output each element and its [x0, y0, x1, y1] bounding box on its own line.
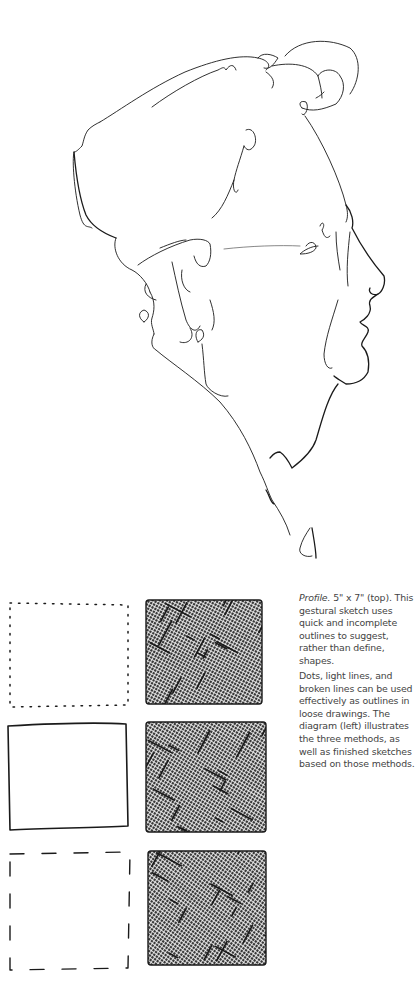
dashed-outline-diagram	[4, 848, 136, 978]
solid-outline-diagram	[4, 718, 136, 840]
caption-title: Profile.	[299, 592, 330, 603]
caption-profile: Profile. 5" x 7" (top). This gestural sk…	[299, 592, 417, 668]
crosshatch-lines	[144, 598, 264, 706]
finished-sketch-light-lines	[144, 720, 268, 834]
crosshatch-lines	[146, 849, 268, 967]
profile-sketch	[0, 0, 417, 560]
head-outline	[73, 41, 384, 558]
caption-diagram: Dots, light lines, and broken lines can …	[299, 670, 417, 771]
dotted-outline-diagram	[4, 595, 136, 717]
caption-profile-body: 5" x 7" (top). This gestural sketch uses…	[299, 592, 413, 666]
crosshatch-lines	[144, 720, 268, 834]
finished-sketch-broken-lines	[146, 849, 268, 967]
finished-sketch-dots	[144, 598, 264, 706]
